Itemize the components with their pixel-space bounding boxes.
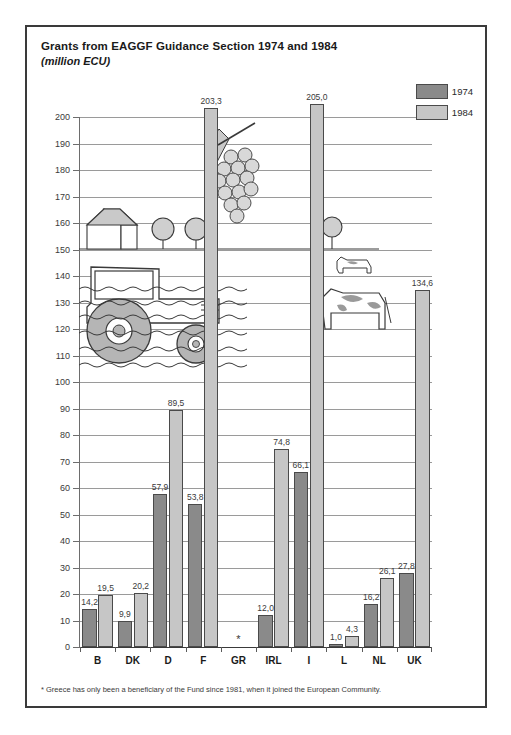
y-tick-mark: [73, 276, 80, 277]
footnote: * Greece has only been a beneficiary of …: [41, 685, 381, 694]
y-tick-mark: [73, 515, 80, 516]
bar-F-1974[interactable]: [188, 504, 203, 647]
bar-value-D-1984: 89,5: [168, 398, 185, 408]
bar-value-UK-1974: 27,8: [398, 561, 415, 571]
x-tick-mark: [362, 647, 363, 652]
x-tick-mark: [291, 647, 292, 652]
y-tick-label: 20: [60, 589, 70, 599]
x-axis-label-I: I: [307, 655, 310, 666]
plot-area: 0102030405060708090100110120130140150160…: [79, 117, 432, 648]
x-axis-label-L: L: [341, 655, 347, 666]
y-tick-mark: [73, 223, 80, 224]
y-tick-label: 60: [60, 483, 70, 493]
bar-NL-1984[interactable]: [380, 578, 395, 647]
legend-item-1984[interactable]: 1984: [416, 105, 473, 120]
bar-IRL-1984[interactable]: [274, 449, 289, 647]
y-tick-mark: [73, 329, 80, 330]
x-tick-mark: [397, 647, 398, 652]
y-tick-label: 160: [55, 218, 70, 228]
y-tick-label: 90: [60, 404, 70, 414]
y-tick-mark: [73, 382, 80, 383]
legend-swatch-1984: [416, 105, 448, 120]
chart-legend: 1974 1984: [416, 84, 473, 126]
annotation-marker-GR: *: [236, 633, 240, 645]
y-tick-mark: [73, 462, 80, 463]
y-tick-mark: [73, 250, 80, 251]
bars-layer: 14,219,5B9,920,2DK57,989,5D53,8203,3F*GR…: [80, 117, 432, 647]
y-tick-label: 10: [60, 616, 70, 626]
bar-D-1974[interactable]: [153, 494, 168, 647]
y-tick-label: 190: [55, 139, 70, 149]
y-tick-label: 120: [55, 324, 70, 334]
bar-value-L-1984: 4,3: [346, 624, 358, 634]
bar-L-1974[interactable]: [329, 644, 344, 647]
bar-UK-1974[interactable]: [399, 573, 414, 647]
bar-B-1984[interactable]: [98, 595, 113, 647]
legend-swatch-1974: [416, 84, 448, 99]
bar-UK-1984[interactable]: [415, 290, 430, 647]
bar-F-1984[interactable]: [204, 108, 219, 647]
bar-IRL-1974[interactable]: [258, 615, 273, 647]
bar-B-1974[interactable]: [82, 609, 97, 647]
bar-NL-1974[interactable]: [364, 604, 379, 647]
bar-DK-1984[interactable]: [134, 593, 149, 647]
bar-value-I-1984: 205,0: [306, 92, 327, 102]
y-tick-label: 40: [60, 536, 70, 546]
y-tick-mark: [73, 594, 80, 595]
bar-value-NL-1984: 26,1: [379, 566, 396, 576]
y-tick-mark: [73, 409, 80, 410]
y-tick-label: 50: [60, 510, 70, 520]
bar-DK-1974[interactable]: [118, 621, 133, 647]
legend-item-1974[interactable]: 1974: [416, 84, 473, 99]
x-tick-mark: [80, 647, 81, 652]
bar-value-F-1974: 53,8: [187, 492, 204, 502]
chart-subtitle: (million ECU): [41, 54, 461, 68]
y-tick-label: 150: [55, 245, 70, 255]
x-tick-mark: [221, 647, 222, 652]
legend-label-1974: 1974: [452, 86, 473, 97]
x-axis-label-GR: GR: [231, 655, 246, 666]
x-tick-mark: [115, 647, 116, 652]
x-axis-label-D: D: [164, 655, 171, 666]
y-tick-label: 70: [60, 457, 70, 467]
x-tick-mark: [326, 647, 327, 652]
y-tick-label: 180: [55, 165, 70, 175]
bar-D-1984[interactable]: [169, 410, 184, 647]
bar-value-NL-1974: 16,2: [363, 592, 380, 602]
y-tick-mark: [73, 647, 80, 648]
y-tick-mark: [73, 197, 80, 198]
bar-I-1984[interactable]: [310, 104, 325, 647]
x-axis-label-NL: NL: [373, 655, 386, 666]
y-tick-label: 200: [55, 112, 70, 122]
x-tick-mark: [186, 647, 187, 652]
y-tick-mark: [73, 356, 80, 357]
y-tick-label: 110: [56, 351, 70, 361]
bar-value-L-1974: 1,0: [330, 632, 342, 642]
bar-value-D-1974: 57,9: [152, 482, 169, 492]
bar-I-1974[interactable]: [294, 472, 309, 647]
chart-frame: Grants from EAGGF Guidance Section 1974 …: [25, 25, 487, 708]
bar-value-DK-1974: 9,9: [119, 609, 131, 619]
x-axis-label-DK: DK: [126, 655, 140, 666]
x-axis-label-F: F: [200, 655, 206, 666]
bar-value-UK-1984: 134,6: [412, 278, 433, 288]
legend-label-1984: 1984: [452, 107, 473, 118]
bar-L-1984[interactable]: [345, 636, 360, 647]
x-tick-mark: [150, 647, 151, 652]
bar-value-B-1974: 14,2: [81, 597, 98, 607]
bar-value-IRL-1984: 74,8: [273, 437, 290, 447]
y-tick-mark: [73, 117, 80, 118]
y-tick-label: 130: [55, 298, 70, 308]
x-tick-mark: [431, 647, 432, 652]
x-axis-label-IRL: IRL: [266, 655, 282, 666]
y-tick-mark: [73, 541, 80, 542]
y-tick-label: 170: [55, 192, 70, 202]
y-tick-label: 30: [60, 563, 70, 573]
y-tick-label: 140: [55, 271, 70, 281]
title-block: Grants from EAGGF Guidance Section 1974 …: [41, 39, 461, 68]
y-tick-mark: [73, 568, 80, 569]
x-axis-label-UK: UK: [407, 655, 421, 666]
y-tick-mark: [73, 144, 80, 145]
x-tick-mark: [256, 647, 257, 652]
plot-wrapper: 0102030405060708090100110120130140150160…: [41, 82, 477, 677]
